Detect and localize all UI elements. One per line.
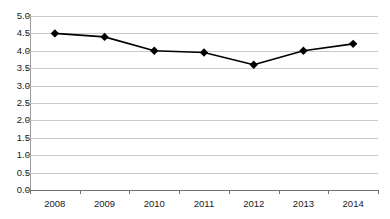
gridline-4.0 [30,51,378,52]
gridline-0.5 [30,173,378,174]
x-tick-mark-4 [229,190,230,194]
gridline-3.0 [30,86,378,87]
x-tick-mark-7 [378,190,379,194]
x-axis-line [30,190,379,191]
plot-area [30,16,378,190]
x-tick-mark-2 [129,190,130,194]
x-tick-label-2010: 2010 [144,198,165,209]
gridline-2.0 [30,120,378,121]
x-tick-label-2014: 2014 [343,198,364,209]
gridline-1.5 [30,138,378,139]
gridline-3.5 [30,68,378,69]
x-tick-label-2013: 2013 [293,198,314,209]
x-tick-label-2008: 2008 [44,198,65,209]
x-tick-mark-1 [80,190,81,194]
x-tick-label-2011: 2011 [194,198,214,209]
gridline-1.0 [30,155,378,156]
x-tick-mark-6 [328,190,329,194]
x-tick-label-2012: 2012 [243,198,264,209]
gridline-4.5 [30,33,378,34]
gridline-5.0 [30,16,378,17]
x-tick-mark-0 [30,190,31,194]
line-chart: 5.04.54.03.53.02.52.01.51.00.50.0 200820… [0,0,390,219]
x-tick-label-2009: 2009 [94,198,115,209]
x-tick-mark-5 [279,190,280,194]
gridline-2.5 [30,103,378,104]
x-tick-mark-3 [179,190,180,194]
y-axis-labels: 5.04.54.03.53.02.52.01.51.00.50.0 [0,0,30,219]
